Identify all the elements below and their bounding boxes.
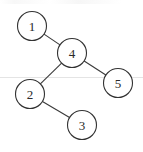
edge-4-2 bbox=[40, 63, 61, 84]
nodes-group: 14523 bbox=[16, 12, 133, 140]
node-4: 4 bbox=[58, 39, 87, 68]
edge-4-5 bbox=[84, 61, 106, 75]
node-label: 2 bbox=[27, 87, 34, 102]
node-label: 1 bbox=[29, 19, 36, 34]
tree-diagram: 14523 bbox=[0, 0, 143, 152]
edge-2-3 bbox=[42, 101, 69, 117]
node-label: 3 bbox=[79, 118, 86, 133]
node-5: 5 bbox=[104, 69, 133, 98]
node-2: 2 bbox=[16, 80, 45, 109]
node-label: 5 bbox=[115, 76, 122, 91]
edge-1-4 bbox=[44, 34, 60, 45]
node-1: 1 bbox=[18, 12, 47, 41]
node-3: 3 bbox=[68, 111, 97, 140]
node-label: 4 bbox=[69, 46, 76, 61]
